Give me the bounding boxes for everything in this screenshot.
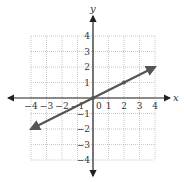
x-tick-label: 3 [137, 101, 143, 111]
y-tick-label: 2 [84, 62, 90, 72]
x-tick-label: −4 [24, 101, 38, 111]
y-tick-label: −3 [77, 140, 91, 150]
x-tick-label: −3 [40, 101, 54, 111]
x-tick-label: −2 [55, 101, 68, 111]
y-tick-label: 4 [84, 31, 90, 41]
coordinate-plane: −4−3−2−1012344321−1−2−3−4 x y [0, 0, 184, 182]
y-tick-label: 1 [84, 78, 90, 88]
x-tick-label: 0 [96, 101, 102, 111]
x-axis-label: x [173, 92, 179, 103]
data-point [122, 81, 126, 85]
y-tick-label: −4 [77, 155, 91, 165]
x-tick-label: 1 [106, 101, 112, 111]
data-point [91, 96, 95, 100]
y-tick-label: −1 [77, 109, 90, 119]
x-tick-label: 2 [121, 101, 127, 111]
y-tick-label: 3 [84, 47, 90, 57]
y-axis-label: y [89, 3, 96, 14]
y-tick-label: −2 [77, 124, 90, 134]
x-tick-label: 4 [152, 101, 158, 111]
